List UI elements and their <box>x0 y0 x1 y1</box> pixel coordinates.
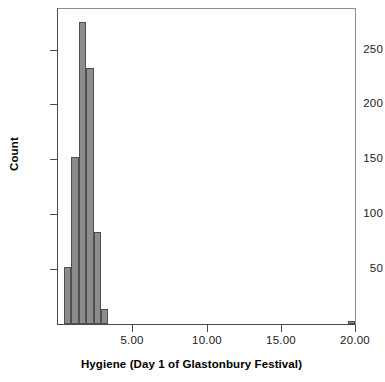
x-axis-tick-label: 20.00 <box>325 334 385 346</box>
x-axis-tick <box>355 325 356 332</box>
histogram-bar <box>64 267 71 324</box>
y-axis-tick <box>50 104 58 105</box>
histogram-bar <box>86 68 93 324</box>
x-axis-tick-label: 15.00 <box>251 334 311 346</box>
x-axis-tick <box>132 325 133 332</box>
bars-layer <box>58 9 355 324</box>
y-axis-tick-label: 200 <box>337 98 383 109</box>
y-axis-tick <box>50 269 58 270</box>
histogram-bar <box>94 232 101 324</box>
x-axis-tick <box>281 325 282 332</box>
y-axis-tick <box>50 159 58 160</box>
histogram-bar <box>71 157 78 324</box>
y-axis-tick <box>50 214 58 215</box>
x-axis-title: Hygiene (Day 1 of Glastonbury Festival) <box>0 358 383 370</box>
x-axis-tick <box>207 325 208 332</box>
y-axis-tick-label: 250 <box>337 44 383 55</box>
histogram-bar <box>101 309 108 324</box>
histogram-bar <box>79 22 86 324</box>
y-axis-tick-label: 50 <box>337 263 383 274</box>
y-axis-tick-label: 100 <box>337 208 383 219</box>
x-axis-tick-label: 5.00 <box>102 334 162 346</box>
y-axis-tick <box>50 50 58 51</box>
y-axis-tick-label: 150 <box>337 153 383 164</box>
x-axis-tick-label: 10.00 <box>177 334 237 346</box>
y-axis-title: Count <box>8 114 20 194</box>
histogram-bar <box>348 321 355 324</box>
